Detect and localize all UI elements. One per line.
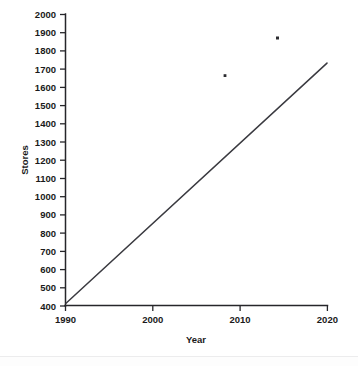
y-tick-label: 1500 xyxy=(35,100,56,111)
y-tick-label: 1000 xyxy=(35,191,56,202)
y-tick-label: 1200 xyxy=(35,155,56,166)
y-tick-label: 400 xyxy=(40,301,56,312)
x-tick-label: 1990 xyxy=(55,314,76,325)
x-axis-tick-labels: 1990 2000 2010 2020 xyxy=(55,314,338,325)
y-tick-label: 1700 xyxy=(35,64,56,75)
y-tick-label: 800 xyxy=(40,228,56,239)
y-tick-label: 1300 xyxy=(35,137,56,148)
y-tick-label: 900 xyxy=(40,209,56,220)
trend-line xyxy=(66,63,327,303)
y-axis-title: Stores xyxy=(19,145,30,175)
x-tick-label: 2010 xyxy=(230,314,251,325)
y-tick-label: 1100 xyxy=(35,173,56,184)
y-tick-label: 500 xyxy=(40,282,56,293)
y-tick-label: 2000 xyxy=(35,9,56,20)
y-tick-label: 700 xyxy=(40,246,56,257)
y-tick-label: 1400 xyxy=(35,118,56,129)
y-tick-label: 1600 xyxy=(35,82,56,93)
y-axis-ticks xyxy=(60,15,65,307)
x-axis-title: Year xyxy=(186,334,206,345)
y-tick-label: 1800 xyxy=(35,45,56,56)
y-tick-label: 600 xyxy=(40,264,56,275)
x-axis-ticks xyxy=(66,306,328,311)
x-tick-label: 2000 xyxy=(142,314,163,325)
x-tick-label: 2020 xyxy=(317,314,338,325)
chart-figure: 2000 1900 1800 1700 1600 1500 1400 1300 … xyxy=(0,0,358,366)
y-tick-label: 1900 xyxy=(35,27,56,38)
data-point xyxy=(224,74,227,77)
scatter-plot: 2000 1900 1800 1700 1600 1500 1400 1300 … xyxy=(0,0,358,366)
data-point xyxy=(276,37,279,40)
y-axis-tick-labels: 2000 1900 1800 1700 1600 1500 1400 1300 … xyxy=(35,9,56,312)
figure-bottom-edge xyxy=(0,356,358,366)
data-points xyxy=(224,37,279,78)
